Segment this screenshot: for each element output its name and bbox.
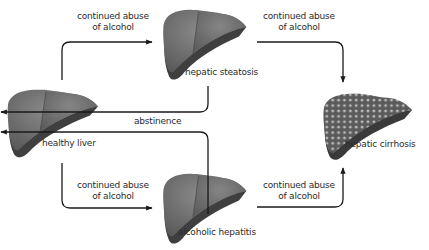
edge-label-healthy-to-hepatitis: continued abuse of alcohol bbox=[77, 180, 149, 202]
node-label-steatosis: hepatic steatosis bbox=[185, 67, 258, 78]
edge-label-line1: continued abuse bbox=[263, 11, 335, 22]
edge-label-hepatitis-to-cirrhosis: continued abuse of alcohol bbox=[263, 180, 335, 202]
edge-label-line2: of alcohol bbox=[77, 22, 149, 33]
arrow-healthy-to-steatosis bbox=[62, 42, 152, 80]
diagram-canvas bbox=[0, 0, 429, 250]
edge-label-healthy-to-steatosis: continued abuse of alcohol bbox=[77, 11, 149, 33]
edge-label-abstinence: abstinence bbox=[134, 116, 181, 127]
edge-label-steatosis-to-cirrhosis: continued abuse of alcohol bbox=[263, 11, 335, 33]
edge-label-line2: of alcohol bbox=[263, 22, 335, 33]
edge-label-line2: of alcohol bbox=[77, 191, 149, 202]
liver-disease-diagram: continued abuse of alcohol continued abu… bbox=[0, 0, 429, 250]
node-label-healthy: healthy liver bbox=[42, 138, 96, 149]
arrow-steatosis-to-cirrhosis bbox=[257, 42, 343, 82]
node-label-hepatitis: alcoholic hepatitis bbox=[178, 227, 256, 238]
edge-label-line1: continued abuse bbox=[77, 180, 149, 191]
edge-label-line2: of alcohol bbox=[263, 191, 335, 202]
node-label-cirrhosis: hepatic cirrhosis bbox=[345, 139, 416, 150]
edge-label-line1: continued abuse bbox=[77, 11, 149, 22]
edge-label-line1: continued abuse bbox=[263, 180, 335, 191]
